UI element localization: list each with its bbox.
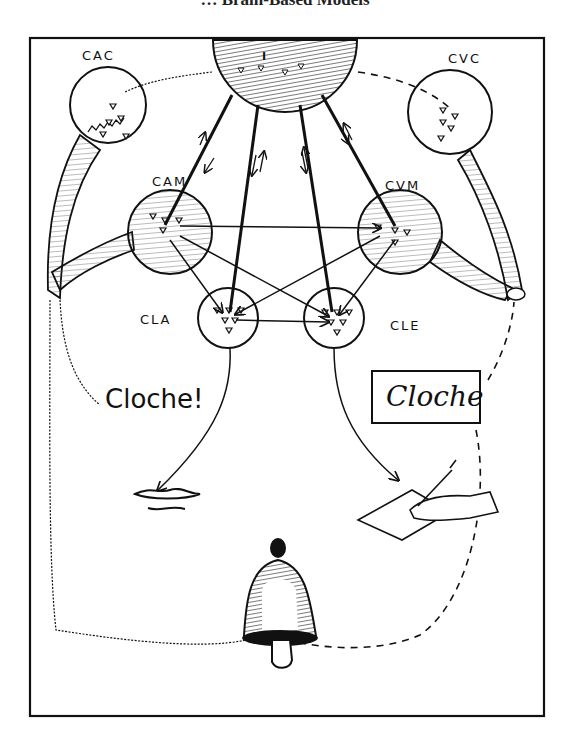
svg-text:CLE: CLE: [390, 318, 421, 333]
right-eye-nerve-icon: [430, 150, 525, 300]
direction-arrows: [200, 124, 352, 175]
center-cvm: CVM: [358, 178, 442, 274]
ideation-center: I: [213, 40, 357, 112]
visual-pathway: [286, 72, 514, 648]
written-word-label: Cloche: [386, 380, 484, 413]
left-ear-nerve-icon: [48, 135, 134, 298]
mouth-icon: [135, 489, 200, 509]
svg-text:CAM: CAM: [152, 174, 187, 189]
center-cvc: CVC: [408, 51, 492, 154]
svg-text:CLA: CLA: [140, 312, 172, 327]
center-cam: CAM: [128, 174, 212, 274]
center-cla: CLA: [140, 288, 258, 348]
svg-text:CVC: CVC: [448, 51, 481, 66]
svg-text:I: I: [262, 50, 266, 63]
svg-text:CVM: CVM: [385, 178, 420, 193]
center-cac: CAC: [70, 48, 146, 143]
spoken-word-label: Cloche!: [105, 384, 203, 414]
bell-icon: [242, 538, 318, 668]
center-cle: CLE: [304, 288, 421, 348]
writing-hand-icon: [358, 460, 498, 540]
speech-pathway: [158, 348, 230, 490]
svg-text:CAC: CAC: [82, 48, 115, 63]
language-centers-diagram: I CAC CVC CAM CVM CLA CLE: [0, 0, 570, 743]
